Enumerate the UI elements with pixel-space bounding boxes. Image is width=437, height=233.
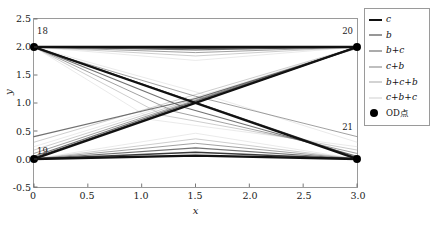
y-tick-1.0: 1.0 [1, 98, 31, 108]
legend: c b b+c c+b b+c+b c+b+c OD点 [364, 8, 430, 126]
legend-label-b: b [386, 31, 392, 40]
network-paths [34, 19, 357, 187]
x-axis-title: x [33, 205, 358, 216]
legend-item-b-plus-c-plus-b[interactable]: b+c+b [368, 74, 426, 90]
legend-label-c-plus-b-plus-c: c+b+c [386, 93, 417, 102]
x-tick-1.0: 1.0 [121, 191, 161, 201]
plot-area: 18 20 19 21 [33, 18, 358, 188]
node-label-21: 21 [342, 123, 353, 132]
x-tick-2.5: 2.5 [284, 191, 324, 201]
y-tick-2.5: 2.5 [1, 14, 31, 24]
legend-label-od-point: OD点 [386, 109, 409, 118]
x-tick-0.5: 0.5 [67, 191, 107, 201]
node-label-19: 19 [37, 147, 48, 156]
circle-marker-icon [368, 108, 383, 118]
legend-label-b-plus-c-plus-b: b+c+b [386, 78, 418, 87]
legend-line-icon-b-plus-c-plus-b [368, 77, 383, 87]
legend-line-icon-c-plus-b [368, 62, 383, 72]
legend-line-icon-b [368, 30, 383, 40]
y-tick-0.5: 0.5 [1, 127, 31, 137]
y-tick-1.5: 1.5 [1, 70, 31, 80]
legend-item-b-plus-c[interactable]: b+c [368, 43, 426, 59]
legend-item-b[interactable]: b [368, 28, 426, 44]
y-axis-title: y [3, 89, 14, 95]
x-tick-0: 0 [13, 191, 53, 201]
node-label-18: 18 [37, 27, 48, 36]
legend-line-icon-c [368, 15, 383, 25]
legend-line-icon-b-plus-c [368, 46, 383, 56]
legend-line-icon-c-plus-b-plus-c [368, 93, 383, 103]
legend-label-b-plus-c: b+c [386, 46, 404, 55]
chart-figure: 2.5 2.0 1.5 1.0 0.5 0.0 -0.5 y 18 20 19 … [0, 0, 437, 233]
legend-item-c-plus-b-plus-c[interactable]: c+b+c [368, 90, 426, 106]
y-tick-2.0: 2.0 [1, 42, 31, 52]
x-tick-2.0: 2.0 [230, 191, 270, 201]
node-label-20: 20 [342, 27, 353, 36]
legend-item-c-plus-b[interactable]: c+b [368, 59, 426, 75]
legend-label-c-plus-b: c+b [386, 62, 404, 71]
x-tick-1.5: 1.5 [175, 191, 215, 201]
legend-label-c: c [386, 15, 391, 24]
legend-item-c[interactable]: c [368, 12, 426, 28]
x-axis-tick-labels: 0 0.5 1.0 1.5 2.0 2.5 3.0 [33, 191, 373, 205]
y-tick-0.0: 0.0 [1, 155, 31, 165]
x-tick-3.0: 3.0 [338, 191, 378, 201]
legend-item-od-point[interactable]: OD点 [368, 106, 426, 122]
